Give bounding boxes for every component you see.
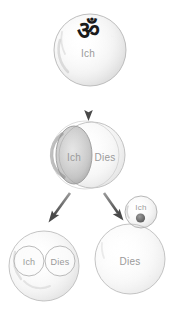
stage2-group	[51, 121, 125, 189]
stage3-right-self-core-dot	[136, 213, 145, 222]
stage3-right-group	[95, 196, 165, 294]
diagram-canvas: ॐ Ich Ich Dies Ich Dies Ich Dies	[0, 0, 175, 309]
arrow-down-left	[49, 193, 71, 223]
arrow-down-right	[104, 193, 124, 221]
arrow-down-right-head	[113, 209, 124, 221]
stage3-left-group	[9, 231, 79, 301]
diagram-svg	[0, 0, 175, 309]
arrow-down-left-shaft	[54, 193, 70, 215]
om-symbol: ॐ	[77, 18, 100, 43]
arrow-down-left-head	[49, 211, 60, 223]
arrow-down-right-shaft	[104, 193, 118, 213]
arrow-down	[84, 90, 93, 121]
